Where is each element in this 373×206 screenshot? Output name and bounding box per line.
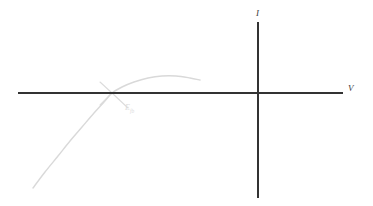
- flat-band-potential-label: Efb: [125, 104, 134, 114]
- annotation-subscript: fb: [130, 108, 134, 114]
- leader-line-upper-left: [100, 82, 112, 93]
- voltage-axis-label: V: [348, 84, 354, 93]
- iv-curve-diagram: I V Efb: [0, 0, 373, 206]
- diagram-canvas: [0, 0, 373, 206]
- current-axis-label: I: [256, 9, 259, 18]
- leader-line-lower-left: [100, 93, 112, 105]
